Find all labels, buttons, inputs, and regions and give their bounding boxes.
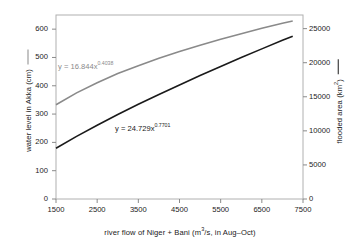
plot-area xyxy=(0,0,360,246)
flooded-area-equation-exponent: 0.7701 xyxy=(154,122,170,128)
plot-frame xyxy=(56,15,303,199)
water-level-equation-text: y = 16.844x xyxy=(58,62,97,71)
chart-figure: water level in Akka (cm) flooded area (k… xyxy=(0,0,360,246)
flooded-area-equation-label: y = 24.729x0.7701 xyxy=(115,122,170,133)
water-level-equation-exponent: 0.4038 xyxy=(97,60,113,66)
water-level-equation-label: y = 16.844x0.4038 xyxy=(58,60,113,71)
y-axis-left-ticks xyxy=(52,29,56,199)
y-axis-right-ticks xyxy=(303,29,307,199)
x-axis-ticks xyxy=(56,199,303,203)
flooded-area-equation-text: y = 24.729x xyxy=(115,124,154,133)
